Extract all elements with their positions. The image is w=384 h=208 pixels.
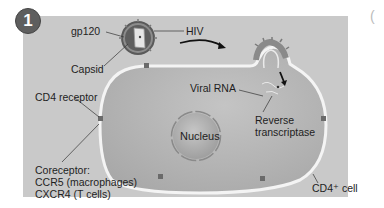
partial-next-panel-glyph: ( xyxy=(370,8,375,24)
movement-arrow xyxy=(180,40,222,46)
label-reverse-transcriptase-line1: Reverse xyxy=(255,114,294,126)
label-capsid: Capsid xyxy=(71,63,104,75)
label-coreceptor-line1: Coreceptor: xyxy=(35,164,90,176)
label-cd4-cell: CD4⁺ cell xyxy=(312,182,358,194)
label-gp120: gp120 xyxy=(71,25,100,37)
label-viral-rna: Viral RNA xyxy=(190,82,236,94)
label-nucleus: Nucleus xyxy=(180,130,220,142)
label-coreceptor-line2: CCR5 (macrophages) xyxy=(35,176,137,188)
coreceptor-marker xyxy=(260,176,265,181)
coreceptor-marker xyxy=(158,174,163,179)
cd4-receptor-marker xyxy=(144,63,149,68)
hiv-virion xyxy=(119,19,157,54)
label-hiv: HIV xyxy=(186,25,204,37)
label-reverse-transcriptase-line2: transcriptase xyxy=(255,126,315,138)
step-number-badge: 1 xyxy=(15,8,41,34)
coreceptor-marker xyxy=(321,116,326,121)
label-cd4-receptor: CD4 receptor xyxy=(35,91,97,103)
label-coreceptor-line3: CXCR4 (T cells) xyxy=(35,188,111,200)
